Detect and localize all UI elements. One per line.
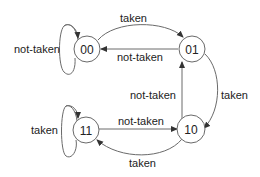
edge-label-10-to-11: taken <box>129 157 156 169</box>
state-11: 11 <box>73 117 99 143</box>
state-01: 01 <box>179 36 205 62</box>
edge-label-00-self: not-taken <box>14 43 60 55</box>
edge-label-10-to-01: not-taken <box>130 89 176 101</box>
edge-00-self-arrowhead <box>64 25 78 38</box>
state-01-label: 01 <box>185 43 199 57</box>
edge-label-00-to-01: taken <box>120 12 147 24</box>
state-10: 10 <box>177 115 205 143</box>
edge-01-to-10 <box>204 54 218 128</box>
edge-10-to-11 <box>97 139 182 155</box>
edge-label-01-to-00: not-taken <box>117 51 163 63</box>
edge-label-11-to-10: not-taken <box>118 115 164 127</box>
edge-label-11-self: taken <box>31 124 58 136</box>
state-00-label: 00 <box>80 43 94 57</box>
state-10-label: 10 <box>184 123 198 137</box>
state-11-label: 11 <box>80 124 93 138</box>
state-diagram: not-taken taken not-taken taken not-take… <box>0 0 260 177</box>
edge-00-to-01 <box>98 25 183 40</box>
edge-label-01-to-10: taken <box>221 89 248 101</box>
state-00: 00 <box>74 36 100 62</box>
